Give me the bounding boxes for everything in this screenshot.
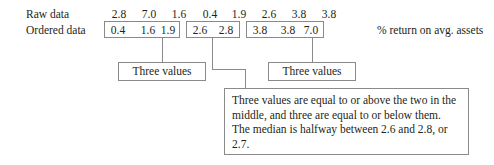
connector-middle-group bbox=[213, 38, 246, 88]
raw-data-value-5: 1.9 bbox=[228, 8, 250, 21]
callout-three-values-right: Three values bbox=[268, 62, 356, 81]
raw-data-value-6: 2.6 bbox=[258, 8, 280, 21]
raw-data-row-label: Raw data bbox=[26, 8, 69, 21]
explanation-text: Three values are equal to or above the t… bbox=[232, 93, 461, 151]
raw-data-value-2: 7.0 bbox=[138, 8, 160, 21]
group-box-upper bbox=[246, 21, 324, 38]
median-explanation-figure: Raw data Ordered data 2.8 7.0 1.6 0.4 1.… bbox=[0, 0, 494, 165]
raw-data-value-3: 1.6 bbox=[168, 8, 190, 21]
callout-three-values-left: Three values bbox=[118, 62, 206, 81]
raw-data-value-7: 3.8 bbox=[288, 8, 310, 21]
ordered-data-row-label: Ordered data bbox=[26, 24, 86, 37]
raw-data-value-1: 2.8 bbox=[108, 8, 130, 21]
group-box-lower bbox=[104, 21, 180, 38]
raw-data-value-4: 0.4 bbox=[199, 8, 221, 21]
units-note: % return on avg. assets bbox=[377, 24, 483, 37]
explanation-box: Three values are equal to or above the t… bbox=[224, 88, 469, 155]
group-box-middle bbox=[186, 21, 240, 38]
raw-data-value-8: 3.8 bbox=[318, 8, 340, 21]
